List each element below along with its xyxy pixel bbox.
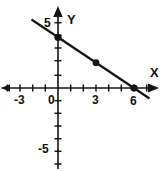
coordinate-plane-figure: Y X -3 0 3 6 5 -5	[0, 0, 166, 171]
x-tick-label-6: 6	[130, 94, 137, 108]
x-axis-arrow-icon	[148, 84, 159, 93]
y-tick-label-5: 5	[44, 16, 51, 30]
x-axis-label: X	[150, 65, 159, 80]
y-axis-arrow-icon	[53, 6, 62, 17]
y-axis-label: Y	[67, 12, 76, 27]
x-axis-left-arrow-icon	[1, 84, 10, 92]
graph-canvas: Y X -3 0 3 6 5 -5	[0, 0, 166, 171]
data-point-0-4	[54, 34, 61, 41]
origin-label: 0	[48, 93, 55, 107]
data-point-6-0	[130, 84, 137, 91]
x-tick-label-neg3: -3	[14, 93, 25, 107]
data-point-3-2	[93, 59, 100, 66]
y-tick-label-neg5: -5	[38, 142, 49, 156]
x-tick-label-3: 3	[92, 93, 99, 107]
